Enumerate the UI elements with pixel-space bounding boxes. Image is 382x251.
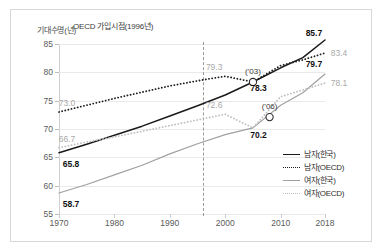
legend-item-3[interactable]: 여자(한국) <box>283 174 344 185</box>
legend-label: 여자(OECD) <box>304 187 344 198</box>
y-tick-label: 70 <box>44 124 53 134</box>
value-label-female-oecd-2018: 78.1 <box>331 78 348 88</box>
value-label-male-korea-1970: 65.8 <box>63 159 80 169</box>
y-axis-title: 기대수명(년) <box>37 24 76 35</box>
value-label-male-cross-2003: 78.3 <box>250 83 267 93</box>
legend-key-icon <box>283 150 300 158</box>
value-label-female-korea-2018: 79.7 <box>306 59 323 69</box>
legend-label: 남자(한국) <box>304 148 336 159</box>
series-line-4 <box>59 83 325 148</box>
male-crossing-marker-label: ('03) <box>245 66 261 75</box>
legend-item-4[interactable]: 여자(OECD) <box>283 187 344 198</box>
female-crossing-marker <box>266 114 273 121</box>
x-tick-label: 1970 <box>50 218 69 228</box>
x-tick-label: 2010 <box>271 218 290 228</box>
value-label-female-korea-1970: 58.7 <box>63 199 80 209</box>
legend-label: 여자(한국) <box>304 174 336 185</box>
x-tick-label: 1980 <box>105 218 124 228</box>
x-tick-label: 2000 <box>216 218 235 228</box>
legend-key-icon <box>283 163 300 171</box>
y-tick-label: 60 <box>44 181 53 191</box>
series-line-1 <box>59 40 325 153</box>
legend-key-icon <box>283 176 300 184</box>
value-label-male-oecd-1970: 73.0 <box>59 98 76 108</box>
y-tick-label: 65 <box>44 152 53 162</box>
chart-screenshot: 기대수명(년) 85807570656055 19701980199020002… <box>0 0 382 251</box>
value-label-female-cross-2006: 70.2 <box>250 130 267 140</box>
legend-item-2[interactable]: 남자(OECD) <box>283 161 344 172</box>
y-tick-label: 75 <box>44 96 53 106</box>
gridline <box>59 214 325 215</box>
x-tick-label: 2018 <box>316 218 335 228</box>
chart-panel: 기대수명(년) 85807570656055 19701980199020002… <box>10 9 372 242</box>
value-label-male-oecd-2018: 83.4 <box>331 48 348 58</box>
female-crossing-marker-label: ('06) <box>262 102 278 111</box>
legend-key-icon <box>283 189 300 197</box>
value-label-male-oecd-2000: 79.3 <box>206 62 223 72</box>
value-label-male-korea-2018: 85.7 <box>306 28 323 38</box>
oecd-join-annotation: OECD 가입시점(1996년) <box>73 20 153 31</box>
legend-item-1[interactable]: 남자(한국) <box>283 148 344 159</box>
x-tick-label: 1990 <box>160 218 179 228</box>
y-tick-label: 85 <box>44 39 53 49</box>
value-label-female-oecd-1970: 66.7 <box>59 134 76 144</box>
y-tick-label: 80 <box>44 67 53 77</box>
legend: 남자(한국)남자(OECD)여자(한국)여자(OECD) <box>283 148 344 198</box>
legend-label: 남자(OECD) <box>304 161 344 172</box>
value-label-female-oecd-2000: 72.6 <box>206 100 223 110</box>
